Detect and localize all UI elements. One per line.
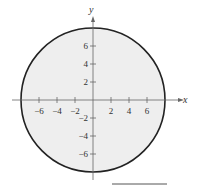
y-tick-label: −6 <box>78 149 88 159</box>
y-tick-label: −2 <box>78 113 88 123</box>
circle-graph: −6−4−2246642−2−4−6 x y <box>0 0 199 191</box>
x-axis-label: x <box>182 94 188 105</box>
y-tick-label: 4 <box>84 59 89 69</box>
x-tick-label: 4 <box>127 106 132 116</box>
x-tick-label: −4 <box>52 106 62 116</box>
y-tick-label: −4 <box>78 131 88 141</box>
x-tick-label: 6 <box>145 106 150 116</box>
x-tick-label: −6 <box>34 106 44 116</box>
y-axis-label: y <box>88 4 94 15</box>
y-tick-label: 6 <box>84 41 89 51</box>
y-axis-arrow-icon <box>91 16 95 22</box>
x-tick-label: 2 <box>109 106 114 116</box>
y-tick-label: 2 <box>84 77 89 87</box>
